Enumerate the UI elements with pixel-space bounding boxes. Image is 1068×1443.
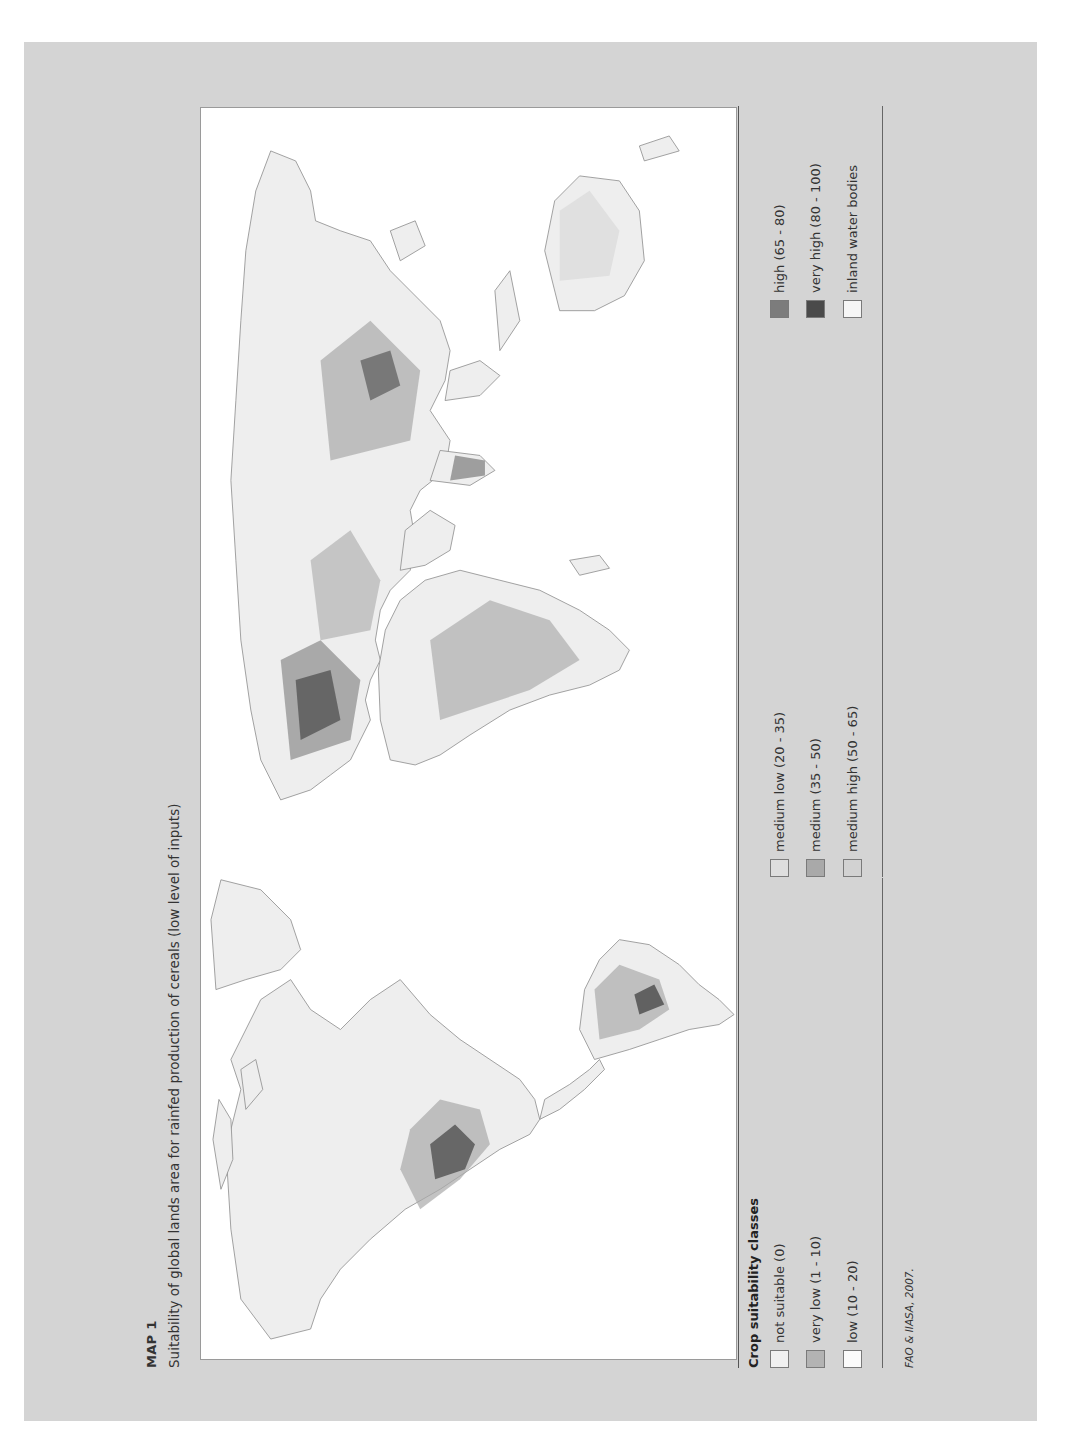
north-america (226, 980, 540, 1339)
swatch-not-suitable (770, 1350, 789, 1368)
greenland (211, 880, 301, 990)
legend-item-medium: medium (35 - 50) (805, 738, 825, 877)
swatch-inland-water (843, 300, 862, 318)
swatch-high (770, 300, 789, 318)
swatch-medium-low (770, 859, 789, 877)
rotated-map-frame: MAP 1 Suitability of global lands area f… (24, 42, 1037, 1421)
source-divider (882, 878, 883, 1368)
legend-item-medium-low: medium low (20 - 35) (769, 712, 789, 877)
world-map (200, 107, 737, 1360)
map-panel: MAP 1 Suitability of global lands area f… (24, 42, 1037, 1421)
swatch-medium (806, 859, 825, 877)
swatch-very-high (806, 300, 825, 318)
legend-item-high: high (65 - 80) (769, 204, 789, 318)
world-map-graphic (201, 108, 736, 1359)
legend-title: Crop suitability classes (746, 1198, 761, 1368)
source-divider-right (882, 106, 883, 877)
map-number-label: MAP 1 (144, 1320, 159, 1368)
legend-item-very-low: very low (1 - 10) (805, 1236, 825, 1368)
swatch-low (843, 1350, 862, 1368)
map-source: FAO & IIASA, 2007. (903, 1268, 915, 1368)
map-title: Suitability of global lands area for rai… (166, 804, 182, 1368)
legend-item-inland-water: inland water bodies (842, 165, 862, 318)
legend-item-very-high: very high (80 - 100) (805, 163, 825, 318)
legend-divider (738, 106, 739, 1368)
legend-item-not-suitable: not suitable (0) (769, 1243, 789, 1368)
legend-item-medium-high: medium high (50 - 65) (842, 706, 862, 877)
swatch-very-low (806, 1350, 825, 1368)
swatch-medium-high (843, 859, 862, 877)
legend-item-low: low (10 - 20) (842, 1260, 862, 1368)
